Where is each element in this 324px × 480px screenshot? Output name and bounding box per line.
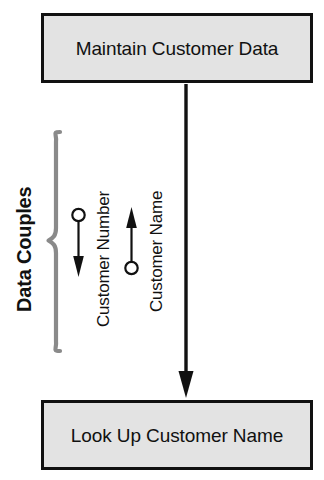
customer-name-arrow-head (126, 207, 137, 228)
module-label-maintain-customer-data: Maintain Customer Data (76, 39, 279, 58)
brace-path (49, 132, 61, 351)
customer-number-arrow-head (73, 256, 84, 277)
couple-label-customer-number: Customer Number (95, 191, 112, 327)
group-label-data-couples: Data Couples (14, 187, 34, 312)
invocation-arrow-head (179, 371, 194, 398)
couple-label-customer-name: Customer Name (148, 191, 165, 312)
data-couple-customer-number (72, 209, 84, 277)
module-box-look-up-customer-name[interactable]: Look Up Customer Name (41, 400, 313, 470)
data-couples-brace (49, 132, 61, 351)
customer-number-circle-marker (72, 209, 84, 221)
customer-name-circle-marker (125, 262, 137, 274)
invocation-arrow (179, 84, 194, 398)
data-couple-customer-name (125, 207, 137, 274)
module-label-look-up-customer-name: Look Up Customer Name (71, 426, 283, 445)
module-box-maintain-customer-data[interactable]: Maintain Customer Data (41, 13, 313, 83)
structure-chart-diagram: Maintain Customer Data Look Up Customer … (0, 0, 324, 480)
